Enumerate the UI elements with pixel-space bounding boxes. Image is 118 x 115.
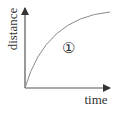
curve-marker: ①	[62, 40, 75, 56]
y-axis-label: distance	[5, 7, 20, 50]
x-axis-label: time	[84, 92, 107, 107]
distance-time-graph: ① time distance	[0, 0, 118, 115]
